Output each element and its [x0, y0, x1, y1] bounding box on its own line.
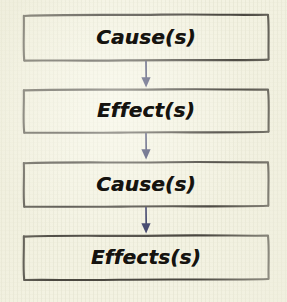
flowchart-node-cause-1[interactable]: Cause(s) — [21, 12, 271, 63]
arrow-down-icon-2 — [137, 133, 155, 161]
node-label: Cause(s) — [96, 174, 196, 194]
diagram-canvas: Cause(s) Effect(s) Cause(s) — [0, 0, 287, 302]
node-label: Effect(s) — [97, 100, 195, 120]
flowchart-node-effect-1[interactable]: Effect(s) — [21, 87, 271, 135]
flowchart-node-effect-2[interactable]: Effects(s) — [21, 233, 271, 282]
arrow-down-icon-3 — [137, 207, 155, 235]
flowchart-node-cause-2[interactable]: Cause(s) — [21, 160, 271, 209]
node-label: Cause(s) — [96, 27, 196, 47]
arrow-down-icon-1 — [137, 61, 155, 89]
node-label: Effects(s) — [91, 247, 201, 267]
